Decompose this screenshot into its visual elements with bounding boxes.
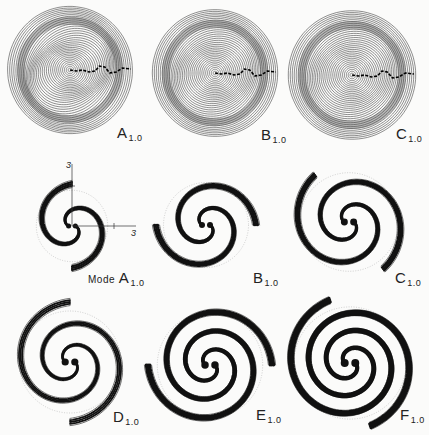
- spiral-panel-C: C1.0: [284, 150, 429, 290]
- disk-panel-B: B1.0: [145, 0, 290, 145]
- x-axis-tick-label: 3: [131, 228, 136, 238]
- spiral-panel-B: B1.0: [140, 150, 285, 290]
- panel-label-A-top: A1.0: [117, 124, 143, 143]
- panel-label-C-mid: C1.0: [395, 269, 421, 288]
- panel-label-mode-A: Mode A1.0: [88, 269, 144, 288]
- panel-label-D: D1.0: [113, 408, 139, 427]
- panel-label-E: E1.0: [256, 406, 282, 425]
- spiral-panel-E: E1.0: [140, 290, 285, 435]
- spiral-panel-mode-A: 3 3 Mode A1.0: [0, 150, 145, 290]
- panel-label-C-top: C1.0: [396, 125, 422, 144]
- disk-panel-C: C1.0: [284, 0, 429, 145]
- concentric-disk-C: [284, 0, 429, 145]
- spiral-panel-F: F1.0: [284, 290, 429, 435]
- panel-label-B-mid: B1.0: [253, 269, 279, 288]
- concentric-disk-B: [145, 0, 290, 145]
- spiral-panel-D: D1.0: [0, 290, 145, 435]
- panel-label-B-top: B1.0: [261, 126, 287, 145]
- panel-label-F: F1.0: [400, 406, 425, 425]
- disk-panel-A: A1.0: [0, 0, 145, 145]
- y-axis-tick-label: 3: [66, 160, 71, 170]
